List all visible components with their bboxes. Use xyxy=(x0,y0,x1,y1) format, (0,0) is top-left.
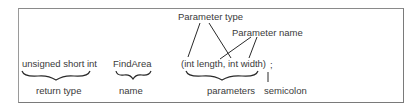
parameter-type-label: Parameter type xyxy=(178,11,243,22)
parameter-name-label: Parameter name xyxy=(232,27,303,38)
param-type-line-1 xyxy=(188,23,200,57)
parameters-code: (int length, int width) xyxy=(181,58,266,69)
param-name-line-2 xyxy=(249,37,257,58)
semicolon-label: semicolon xyxy=(264,85,307,96)
brace-name xyxy=(116,71,151,79)
return-type-label: return type xyxy=(36,85,81,96)
parameters-label: parameters xyxy=(207,85,255,96)
return-type-code: unsigned short int xyxy=(22,58,97,69)
function-name-code: FindArea xyxy=(113,58,152,69)
brace-return-type xyxy=(22,71,90,80)
name-label: name xyxy=(119,85,143,96)
param-type-line-2 xyxy=(209,23,231,58)
brace-parameters xyxy=(186,71,258,80)
semicolon-code: ; xyxy=(270,59,273,70)
